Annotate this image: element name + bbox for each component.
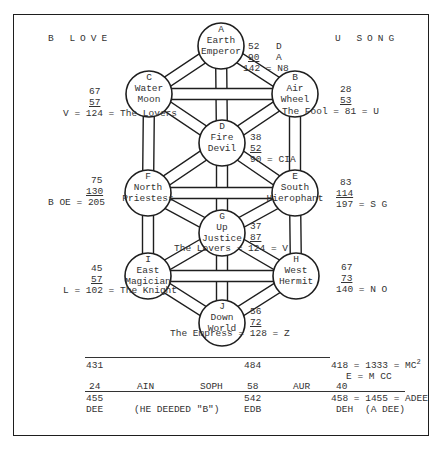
sum-i-total: L = 102 = The Knight [63, 285, 177, 296]
node-element: Air [265, 83, 325, 94]
node-id: G [192, 211, 252, 222]
node-id: J [192, 301, 252, 312]
node-element: Down [192, 312, 252, 323]
node-id: I [118, 254, 178, 265]
node-id: F [118, 171, 178, 182]
node-element: Water [119, 83, 179, 94]
sum-f-total: B OE = 205 [48, 197, 105, 208]
sum-c-second: 57 [89, 97, 100, 108]
node-label-b: BAirWheel [265, 72, 325, 105]
sum-g-first: 37 [250, 221, 261, 232]
sum-d-first: 38 [250, 132, 261, 143]
footer-r5-c3: EDB [244, 404, 261, 415]
footer-r2-c5: E = M CC [346, 371, 392, 382]
node-element: West [266, 265, 326, 276]
node-element: Earth [191, 35, 251, 46]
node-element: North [118, 182, 178, 193]
node-label-d: DFireDevil [192, 121, 252, 154]
left-title: B LOVE [48, 33, 112, 44]
node-card: Wheel [265, 94, 325, 105]
sum-c-total: V = 124 = The Lovers [63, 108, 177, 119]
sum-a-first-note: D [276, 41, 282, 52]
sum-j-first: 56 [250, 306, 261, 317]
sum-f-second: 130 [86, 186, 103, 197]
node-label-e: ESouthHierophant [265, 171, 325, 204]
node-id: E [265, 171, 325, 182]
node-element: Fire [192, 132, 252, 143]
footer-r5-c5: (A DEE) [365, 404, 405, 415]
node-label-c: CWaterMoon [119, 72, 179, 105]
node-label-g: GUpJustice [192, 211, 252, 244]
footer-r1-c3: 484 [244, 360, 261, 371]
node-card: Hermit [266, 276, 326, 287]
node-id: C [119, 72, 179, 83]
node-id: D [192, 121, 252, 132]
footer-r1-c5: 418 = 1333 = MC2 [331, 360, 421, 371]
node-card: Hierophant [265, 193, 325, 204]
sum-a-second: 90 [248, 52, 259, 63]
node-element: East [118, 265, 178, 276]
sum-f-first: 75 [91, 175, 102, 186]
node-label-h: HWestHermit [266, 254, 326, 287]
sum-e-second: 114 [336, 188, 353, 199]
sum-g-total: The Lovers = 124 = V [174, 243, 288, 254]
node-id: A [191, 24, 251, 35]
sum-b-total: The Fool = 81 = U [282, 106, 379, 117]
sum-g-second: 87 [250, 232, 261, 243]
node-label-i: IEastMagician [118, 254, 178, 287]
footer-r1-c1: 431 [86, 360, 103, 371]
footer-r4-c5: 458 = 1455 = ADEE [331, 393, 428, 404]
sum-a-second-note: A [276, 52, 282, 63]
footer-r3-c1: 24 [89, 381, 100, 392]
sum-a-first: 52 [248, 41, 259, 52]
footer-r4-c1: 455 [86, 393, 103, 404]
sum-e-first: 83 [340, 177, 351, 188]
footer-r3-c4: AUR [293, 381, 310, 392]
footer-r4-c3: 542 [244, 393, 261, 404]
node-element: South [265, 182, 325, 193]
node-label-f: FNorthPriestess [118, 171, 178, 204]
footer-r3-c5: 40 [336, 381, 347, 392]
sum-a-total: 142 = N8 [243, 63, 289, 74]
sum-h-second: 73 [341, 273, 352, 284]
footer-r5-c2: (HE DEEDED "B") [134, 404, 220, 415]
sum-h-total: 140 = N O [336, 284, 387, 295]
node-id: H [266, 254, 326, 265]
sum-j-second: 72 [250, 317, 261, 328]
node-card: Moon [119, 94, 179, 105]
sum-h-first: 67 [341, 262, 352, 273]
footer-r5-c5a: DEH [336, 404, 353, 415]
footer-r3-c3: 58 [247, 381, 258, 392]
footer-top-rule [85, 357, 330, 358]
sum-d-second: 52 [250, 143, 261, 154]
sum-d-total: 90 = CIA [250, 154, 296, 165]
sum-j-total: The Empress = 128 = Z [170, 328, 290, 339]
sum-i-second: 57 [91, 274, 102, 285]
footer-mid-rule [85, 391, 405, 392]
sum-c-first: 67 [89, 86, 100, 97]
node-card: Devil [192, 143, 252, 154]
footer-r5-c1: DEE [86, 404, 103, 415]
sum-b-second: 53 [340, 95, 351, 106]
node-label-a: AEarthEmperor [191, 24, 251, 57]
sum-b-first: 28 [340, 84, 351, 95]
footer-r3-c3a: SOPH [200, 381, 223, 392]
sum-e-total: 197 = S G [336, 199, 387, 210]
node-card: Emperor [191, 46, 251, 57]
node-card: Priestess [118, 193, 178, 204]
right-title: U SONG [335, 33, 399, 44]
footer-r3-c2: AIN [137, 381, 154, 392]
sum-i-first: 45 [91, 263, 102, 274]
node-element: Up [192, 222, 252, 233]
